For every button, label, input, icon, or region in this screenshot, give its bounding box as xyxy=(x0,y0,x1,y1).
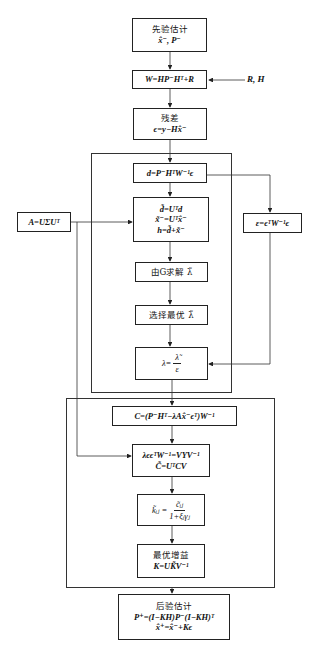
solve-label: 由G求解 λ̃ xyxy=(151,267,193,278)
k-tilde-node: k̃ᵢⱼ = c̃ᵢⱼ 1+ξᵢγⱼ xyxy=(137,494,205,526)
lambda-denominator: ε xyxy=(176,364,179,375)
w-formula: W=HP⁻Hᵀ+R xyxy=(145,74,194,85)
posterior-line2: x̂⁺=x̂⁻+Kϵ xyxy=(156,622,193,633)
prior-title: 先验估计 xyxy=(152,24,188,35)
d-node: d=P⁻HᵀW⁻¹ϵ xyxy=(133,163,207,183)
c-node: C=(P⁻Hᵀ−λAx̂⁻ϵᵀ)W⁻¹ xyxy=(112,406,237,426)
posterior-title: 后验估计 xyxy=(156,601,192,612)
k-tilde-fraction: c̃ᵢⱼ 1+ξᵢγⱼ xyxy=(169,499,190,521)
lambda-lhs: λ= xyxy=(162,358,171,369)
transform-line2: x̃⁻=Uᵀx̂⁻ xyxy=(155,214,187,225)
prior-estimate-node: 先验估计 x̂⁻, P⁻ xyxy=(132,18,207,52)
residual-node: 残差 ϵ=y−Hx̂⁻ xyxy=(133,108,207,140)
solve-node: 由G求解 λ̃ xyxy=(135,262,208,282)
lambda-numerator: λ̃ xyxy=(173,352,181,364)
w-node: W=HP⁻Hᵀ+R xyxy=(132,70,207,89)
k-tilde-numerator: c̃ᵢⱼ xyxy=(174,499,185,511)
select-node: 选择最优 λ̃ xyxy=(135,305,208,325)
transform-line3: h=d̃+x̃⁻ xyxy=(157,225,184,236)
k-tilde-denominator: 1+ξᵢγⱼ xyxy=(169,511,190,522)
c-formula: C=(P⁻Hᵀ−λAx̂⁻ϵᵀ)W⁻¹ xyxy=(134,411,214,422)
eig-line1: λϵϵᵀW⁻¹=VΥV⁻¹ xyxy=(142,450,199,461)
lambda-fraction: λ̃ ε xyxy=(173,352,181,374)
rh-input-label: R, H xyxy=(247,74,265,84)
epsilon-node: ε=ϵᵀW⁻¹ϵ xyxy=(243,213,302,233)
gain-title: 最优增益 xyxy=(153,550,189,561)
epsilon-formula: ε=ϵᵀW⁻¹ϵ xyxy=(256,218,289,229)
transform-node: d̃=Uᵀd x̃⁻=Uᵀx̂⁻ h=d̃+x̃⁻ xyxy=(133,197,209,242)
transform-line1: d̃=Uᵀd xyxy=(160,204,183,215)
svd-formula: A=UΣUᵀ xyxy=(28,217,59,228)
select-label: 选择最优 λ̃ xyxy=(149,310,193,321)
posterior-line1: P⁺=(I−KH)P⁻(I−KH)ᵀ xyxy=(134,612,214,623)
residual-formula: ϵ=y−Hx̂⁻ xyxy=(154,124,187,135)
eig-line2: C̃=UᵀCV xyxy=(155,461,186,472)
lambda-node: λ= λ̃ ε xyxy=(135,347,208,380)
d-formula: d=P⁻HᵀW⁻¹ϵ xyxy=(147,168,194,179)
posterior-estimate-node: 后验估计 P⁺=(I−KH)P⁻(I−KH)ᵀ x̂⁺=x̂⁻+Kϵ xyxy=(118,594,230,640)
eig-node: λϵϵᵀW⁻¹=VΥV⁻¹ C̃=UᵀCV xyxy=(132,444,210,477)
optimal-gain-node: 最优增益 K=UK̃V⁻¹ xyxy=(137,544,205,578)
residual-title: 残差 xyxy=(161,113,179,124)
prior-formula: x̂⁻, P⁻ xyxy=(158,35,181,46)
svd-node: A=UΣUᵀ xyxy=(17,212,71,232)
k-tilde-lhs: k̃ᵢⱼ = xyxy=(152,505,167,516)
gain-formula: K=UK̃V⁻¹ xyxy=(153,561,188,572)
